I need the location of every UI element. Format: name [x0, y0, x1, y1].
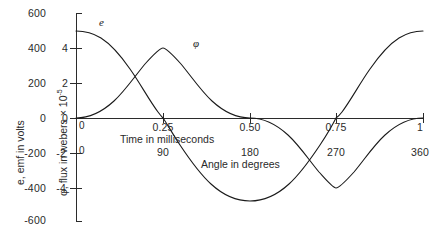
- x-origin-zero: 0: [79, 120, 85, 131]
- y-axis-title-flux-text: φ, flux in webers × 10: [57, 96, 69, 196]
- curve-label-flux: φ: [193, 37, 199, 49]
- x-tick-time-050: 0.50: [230, 121, 270, 133]
- y-tick-volts-200: 200: [2, 77, 46, 89]
- x-axis-caption-time: Time in milliseconds: [120, 133, 214, 145]
- y-tick-volts-600: 600: [2, 7, 46, 19]
- x-tick-time-025: 0.25: [143, 121, 183, 133]
- x-tick-time-1: 1: [410, 121, 430, 133]
- chart-figure: 600 400 200 0 -200 -400 -600 4 2 0 -2 -4…: [0, 0, 433, 233]
- y-axis-title-flux-exponent: -5: [56, 89, 63, 95]
- y-axis: [76, 13, 82, 221]
- y-axis-title-flux: φ, flux in webers × 10-5: [56, 89, 69, 196]
- curve-label-emf: e: [99, 16, 104, 28]
- x-tick-angle-270: 270: [319, 146, 353, 158]
- x-tick-angle-90: 90: [146, 146, 180, 158]
- y-tick-volts-neg600: -600: [2, 214, 46, 226]
- y-axis-title-volts: e, emf in volts: [14, 120, 26, 185]
- x-tick-angle-180: 180: [233, 146, 267, 158]
- y-tick-flux-2: 2: [50, 77, 68, 89]
- angle-origin-zero: 0: [79, 145, 85, 156]
- y-tick-volts-400: 400: [2, 42, 46, 54]
- x-tick-angle-360: 360: [403, 146, 433, 158]
- x-axis-caption-angle: Angle in degrees: [201, 158, 280, 170]
- x-tick-time-075: 0.75: [316, 121, 356, 133]
- y-tick-flux-4: 4: [50, 42, 68, 54]
